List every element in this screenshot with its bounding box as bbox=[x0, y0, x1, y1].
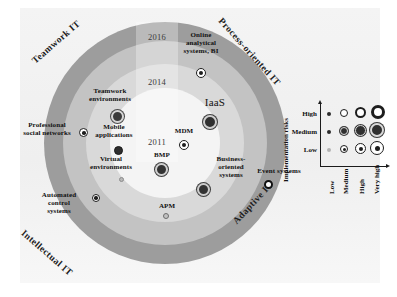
legend-x-label-high: High bbox=[358, 179, 366, 194]
marker-label-mobile-applications: Mobile applications bbox=[86, 124, 142, 140]
legend-dot-low-low bbox=[327, 148, 331, 152]
legend-y-label-high: High bbox=[274, 110, 317, 118]
figure-root: 2016 2014 2011 Teamwork IT Process-orien… bbox=[0, 0, 397, 297]
legend: Implementation risks High Medium Low Low… bbox=[276, 100, 394, 200]
marker-label-automated-control-systems: Automated control systems bbox=[28, 192, 90, 215]
legend-dot-low-medium-core bbox=[343, 148, 346, 151]
marker-label-teamwork-environments: Teamwork environments bbox=[78, 88, 142, 104]
legend-dot-medium-high bbox=[355, 125, 366, 136]
legend-y-label-medium: Medium bbox=[274, 128, 317, 136]
marker-label-bmp: BMP bbox=[142, 152, 182, 160]
marker-bmp[interactable] bbox=[155, 163, 168, 176]
legend-dot-medium-veryhigh bbox=[370, 123, 384, 137]
marker-automated-control-systems-core bbox=[94, 196, 97, 199]
legend-dot-high-high bbox=[355, 107, 366, 118]
legend-y-label-low: Low bbox=[274, 146, 317, 154]
legend-dot-medium-low bbox=[327, 130, 331, 134]
legend-x-label-medium: Medium bbox=[342, 169, 350, 194]
legend-dot-high-veryhigh bbox=[371, 105, 385, 119]
marker-label-online-analytical-systems: Online analytical systems, BI bbox=[172, 32, 230, 55]
legend-dot-low-high-core bbox=[359, 147, 363, 151]
marker-virtual-environments[interactable] bbox=[119, 177, 124, 182]
marker-mdm-core bbox=[182, 143, 186, 147]
legend-y-axis-arrow-icon bbox=[318, 100, 322, 104]
marker-event-systems[interactable] bbox=[264, 180, 273, 189]
legend-x-label-very-high: Very high bbox=[373, 165, 381, 194]
legend-dot-high-medium bbox=[340, 109, 348, 117]
marker-mobile-applications[interactable] bbox=[114, 146, 123, 155]
legend-y-axis bbox=[320, 104, 321, 166]
legend-x-axis-arrow-icon bbox=[386, 164, 390, 168]
marker-label-apm: APM bbox=[148, 203, 186, 211]
marker-iaas[interactable] bbox=[203, 115, 217, 129]
year-tick-2014: 2014 bbox=[136, 77, 178, 87]
marker-label-mdm: MDM bbox=[166, 128, 202, 136]
legend-x-label-low: Low bbox=[328, 181, 336, 194]
marker-online-analytical-systems-core bbox=[199, 71, 203, 75]
legend-dot-low-veryhigh-core bbox=[375, 146, 380, 151]
marker-label-iaas: IaaS bbox=[192, 96, 238, 108]
marker-business-oriented-systems[interactable] bbox=[197, 183, 210, 196]
marker-apm[interactable] bbox=[163, 213, 169, 219]
marker-professional-social-networks-core bbox=[82, 131, 86, 135]
marker-label-professional-social-networks: Professional social networks bbox=[16, 122, 78, 138]
year-tick-2011: 2011 bbox=[136, 137, 178, 147]
marker-label-virtual-environments: Virtual environments bbox=[78, 156, 144, 172]
marker-teamwork-environments[interactable] bbox=[111, 110, 124, 123]
legend-dot-high-low bbox=[327, 112, 331, 116]
legend-dot-medium-medium bbox=[340, 127, 348, 135]
